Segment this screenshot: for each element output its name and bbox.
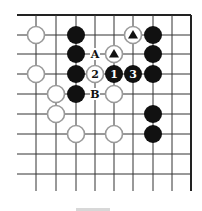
black-stone (67, 26, 85, 44)
white-stone: 2 (87, 66, 104, 83)
move-number: 3 (129, 68, 137, 81)
stone-body (67, 65, 85, 83)
black-stone (67, 45, 85, 63)
move-number: 2 (91, 68, 99, 81)
white-stone (28, 27, 45, 44)
move-number: 1 (110, 68, 118, 81)
stone-body (144, 105, 162, 123)
point-label-a: A (90, 48, 100, 61)
black-stone (67, 85, 85, 103)
black-stone: 1 (105, 65, 123, 83)
stone-body (67, 85, 85, 103)
go-board-diagram: 213 AB (0, 0, 202, 211)
white-stone (106, 46, 123, 63)
black-stone (144, 105, 162, 123)
point-label-b: B (90, 88, 99, 101)
black-stone (144, 26, 162, 44)
stone-body (144, 45, 162, 63)
white-stone (106, 86, 123, 103)
black-stone (144, 65, 162, 83)
black-stone (144, 45, 162, 63)
stone-body (28, 27, 45, 44)
white-stone (68, 126, 85, 143)
board-grid (17, 15, 191, 191)
stone-body (28, 66, 45, 83)
black-stone: 3 (124, 65, 142, 83)
stone-body (106, 86, 123, 103)
white-stone (28, 66, 45, 83)
black-stone (67, 65, 85, 83)
stone-body (67, 45, 85, 63)
stone-body (67, 26, 85, 44)
white-stone (106, 126, 123, 143)
stone-body (106, 126, 123, 143)
stone-body (48, 106, 65, 123)
stone-body (144, 125, 162, 143)
stone-body (48, 86, 65, 103)
caption-fragment (76, 208, 110, 211)
stone-body (68, 126, 85, 143)
stone-body (144, 65, 162, 83)
black-stone (144, 125, 162, 143)
stone-body (144, 26, 162, 44)
white-stone (125, 27, 142, 44)
white-stone (48, 106, 65, 123)
white-stone (48, 86, 65, 103)
